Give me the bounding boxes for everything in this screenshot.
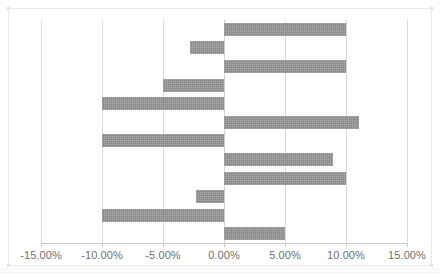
plot-area[interactable] xyxy=(41,20,407,243)
axis-tick xyxy=(163,243,164,247)
bar[interactable] xyxy=(224,227,285,240)
bar[interactable] xyxy=(190,41,224,54)
x-tick-label: -10.00% xyxy=(81,249,123,261)
axis-tick xyxy=(102,243,103,247)
gridline xyxy=(407,20,408,243)
resize-handle-top-left[interactable] xyxy=(7,7,10,10)
image-artifact-line xyxy=(0,272,440,273)
bar[interactable] xyxy=(224,60,346,73)
bar[interactable] xyxy=(102,97,224,110)
axis-tick xyxy=(407,243,408,247)
x-tick-label: -5.00% xyxy=(145,249,180,261)
screenshot-root: -15.00%-10.00%-5.00%0.00%5.00%10.00%15.0… xyxy=(0,0,440,274)
x-axis-tick-labels: -15.00%-10.00%-5.00%0.00%5.00%10.00%15.0… xyxy=(0,249,440,267)
bar[interactable] xyxy=(102,134,224,147)
bar[interactable] xyxy=(102,209,224,222)
bar[interactable] xyxy=(224,172,346,185)
bar[interactable] xyxy=(224,153,333,166)
x-tick-label: 0.00% xyxy=(208,249,240,261)
bar[interactable] xyxy=(196,190,224,203)
axis-tick xyxy=(285,243,286,247)
x-tick-label: 10.00% xyxy=(327,249,365,261)
axis-tick xyxy=(346,243,347,247)
axis-tick xyxy=(224,243,225,247)
x-tick-label: -15.00% xyxy=(20,249,62,261)
image-artifact-line xyxy=(0,269,440,270)
resize-handle-top-right[interactable] xyxy=(430,7,433,10)
x-tick-label: 15.00% xyxy=(388,249,426,261)
bar[interactable] xyxy=(224,23,346,36)
axis-tick xyxy=(41,243,42,247)
x-tick-label: 5.00% xyxy=(269,249,301,261)
bar[interactable] xyxy=(224,116,359,129)
bar[interactable] xyxy=(163,79,224,92)
bar-series[interactable] xyxy=(41,20,407,243)
